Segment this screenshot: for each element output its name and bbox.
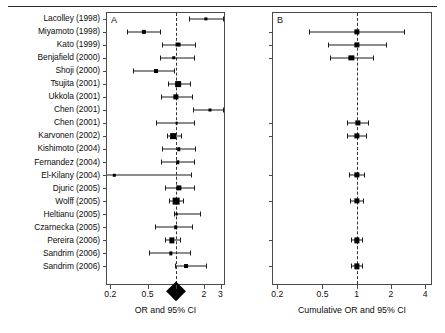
x-axis-tick-label: 2 <box>388 289 393 299</box>
effect-size-marker <box>174 226 178 230</box>
effect-size-marker <box>184 265 188 269</box>
effect-size-marker <box>172 198 179 205</box>
ci-cap-lower <box>328 42 329 47</box>
ci-cap-upper <box>190 81 191 86</box>
ci-cap-upper <box>194 120 195 125</box>
y-axis-tick <box>103 201 106 202</box>
panel-a-plot-area <box>106 12 225 285</box>
effect-size-marker <box>154 69 158 73</box>
ci-cap-upper <box>181 133 182 138</box>
effect-size-marker <box>175 81 181 87</box>
forest-row <box>106 260 225 273</box>
study-label: Tsujita (2001) <box>0 77 103 90</box>
y-axis-tick <box>103 97 106 98</box>
top-rule <box>8 6 437 7</box>
forest-row <box>106 234 225 247</box>
ci-cap-upper <box>368 120 369 125</box>
y-axis-tick <box>103 266 106 267</box>
forest-row <box>106 51 225 64</box>
ci-cap-upper <box>160 29 161 34</box>
ci-cap-lower <box>351 238 352 243</box>
ci-cap-upper <box>183 199 184 204</box>
ci-cap-lower <box>156 120 157 125</box>
y-axis-tick <box>269 45 272 46</box>
y-axis-tick <box>103 58 106 59</box>
study-label: Miyamoto (1998) <box>0 25 103 38</box>
forest-row <box>106 182 225 195</box>
effect-size-marker <box>354 264 359 269</box>
study-label: Wolff (2005) <box>0 195 103 208</box>
forest-row <box>106 12 225 25</box>
forest-row <box>106 221 225 234</box>
forest-plot-figure: Lacolley (1998)Miyamoto (1998)Kato (1999… <box>0 0 445 333</box>
ci-cap-upper <box>194 160 195 165</box>
ci-cap-lower <box>349 173 350 178</box>
confidence-interval-line <box>160 57 194 58</box>
effect-size-marker <box>142 29 146 33</box>
ci-cap-upper <box>174 68 175 73</box>
y-axis-tick <box>103 32 106 33</box>
ci-cap-upper <box>404 29 405 34</box>
y-axis-tick <box>269 266 272 267</box>
x-axis-tick-label: 4 <box>423 289 428 299</box>
forest-row <box>272 25 432 38</box>
effect-size-marker <box>177 147 181 151</box>
effect-size-marker <box>169 238 174 243</box>
ci-cap-lower <box>133 68 134 73</box>
y-axis-tick <box>103 110 106 111</box>
effect-size-marker <box>176 186 181 191</box>
forest-row <box>106 116 225 129</box>
ci-cap-upper <box>194 186 195 191</box>
panel-b: B 0.20.5124 <box>272 12 432 285</box>
study-label: Kishimoto (2004) <box>0 142 103 155</box>
study-label: Karvonen (2002) <box>0 129 103 142</box>
effect-size-marker <box>354 199 359 204</box>
ci-cap-lower <box>149 251 150 256</box>
effect-size-marker <box>354 133 359 138</box>
forest-row <box>272 260 432 273</box>
forest-row <box>106 64 225 77</box>
study-label-column: Lacolley (1998)Miyamoto (1998)Kato (1999… <box>0 12 103 273</box>
ci-cap-lower <box>161 94 162 99</box>
y-axis-tick <box>269 32 272 33</box>
y-axis-tick <box>103 19 106 20</box>
y-axis-tick <box>103 149 106 150</box>
ci-cap-upper <box>386 42 387 47</box>
effect-size-marker <box>172 56 176 60</box>
study-label: Fernandez (2004) <box>0 156 103 169</box>
ci-cap-upper <box>192 225 193 230</box>
study-label: Chen (2001) <box>0 116 103 129</box>
effect-size-marker <box>208 108 211 111</box>
ci-cap-lower <box>309 29 310 34</box>
ci-cap-lower <box>347 120 348 125</box>
forest-row <box>106 208 225 221</box>
effect-size-marker <box>175 42 180 47</box>
ci-cap-upper <box>192 94 193 99</box>
y-axis-tick <box>269 175 272 176</box>
ci-cap-lower <box>347 133 348 138</box>
ci-cap-lower <box>351 264 352 269</box>
forest-row <box>272 51 432 64</box>
confidence-interval-line <box>175 266 206 267</box>
forest-row <box>106 143 225 156</box>
ci-cap-upper <box>364 173 365 178</box>
ci-cap-upper <box>366 133 367 138</box>
y-axis-tick <box>103 240 106 241</box>
y-axis-tick <box>103 84 106 85</box>
effect-size-marker <box>175 122 178 125</box>
ci-cap-upper <box>191 173 192 178</box>
ci-cap-upper <box>206 264 207 269</box>
x-axis-tick-label: 0.2 <box>271 289 283 299</box>
study-label: Chen (2001) <box>0 103 103 116</box>
forest-row <box>106 129 225 142</box>
y-axis-tick <box>103 214 106 215</box>
study-label: Pereira (2006) <box>0 234 103 247</box>
study-label: Sandrim (2006) <box>0 247 103 260</box>
effect-size-marker <box>355 120 360 125</box>
study-label: Benjafield (2000) <box>0 51 103 64</box>
y-axis-tick <box>103 188 106 189</box>
y-axis-tick <box>269 240 272 241</box>
confidence-interval-line <box>133 70 174 71</box>
forest-row <box>272 38 432 51</box>
x-axis-tick-label: 0.5 <box>142 289 154 299</box>
